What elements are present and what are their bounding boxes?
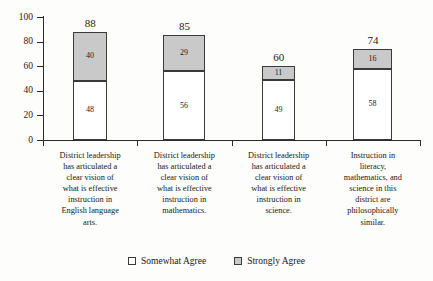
y-axis-tick-label: 20 xyxy=(0,111,33,120)
category-caption-line: has articulated a xyxy=(139,161,229,172)
category-caption-line: English language xyxy=(45,205,135,216)
category-caption: District leadershiphas articulated aclea… xyxy=(45,150,135,228)
bar-stack[interactable]: 4048 xyxy=(73,32,107,140)
category-caption-line: District leadership xyxy=(234,150,324,161)
x-axis-tick xyxy=(137,141,138,146)
bar-total-label: 88 xyxy=(65,18,115,29)
x-axis-tick xyxy=(43,141,44,146)
category-caption-line: arts. xyxy=(45,217,135,228)
category-caption-line: similar. xyxy=(328,217,418,228)
category-caption: Instruction inliteracy,mathematics, ands… xyxy=(328,150,418,228)
category-caption-line: what is effective xyxy=(139,183,229,194)
bar-segment-somewhat-agree[interactable]: 58 xyxy=(353,69,392,140)
bar-segment-value-strongly-agree: 11 xyxy=(275,69,283,77)
bar-segment-strongly-agree[interactable]: 11 xyxy=(262,66,295,80)
category-caption-line: science in this xyxy=(328,183,418,194)
bar-segment-somewhat-agree[interactable]: 49 xyxy=(262,80,295,140)
bar-segment-value-somewhat-agree: 56 xyxy=(180,102,188,110)
x-axis-tick xyxy=(326,141,327,146)
category-caption-line: district are xyxy=(328,194,418,205)
x-axis-tick xyxy=(232,141,233,146)
bar-segment-value-strongly-agree: 16 xyxy=(369,55,377,63)
y-axis-tick xyxy=(37,42,43,43)
category-caption-line: instruction in xyxy=(45,194,135,205)
bar-total-label: 60 xyxy=(254,52,304,63)
category-caption: District leadershiphas articulated aclea… xyxy=(139,150,229,217)
legend-label-strongly-agree: Strongly Agree xyxy=(247,256,305,266)
category-caption-line: clear vision of xyxy=(139,172,229,183)
y-axis-tick-label: 40 xyxy=(0,86,33,95)
category-caption-line: philosophically xyxy=(328,205,418,216)
bar-stack[interactable]: 1149 xyxy=(262,66,295,140)
category-caption-line: has articulated a xyxy=(45,161,135,172)
bar-segment-value-somewhat-agree: 58 xyxy=(369,100,377,108)
bar-segment-value-somewhat-agree: 48 xyxy=(86,106,94,114)
bar-stack[interactable]: 1658 xyxy=(353,49,392,140)
category-caption-line: Instruction in xyxy=(328,150,418,161)
bar-segment-strongly-agree[interactable]: 40 xyxy=(73,32,107,81)
y-axis-tick xyxy=(37,17,43,18)
y-axis-tick-label: 80 xyxy=(0,37,33,46)
bar-segment-value-strongly-agree: 40 xyxy=(86,52,94,60)
bar-segment-strongly-agree[interactable]: 29 xyxy=(163,35,205,71)
bar-segment-value-somewhat-agree: 49 xyxy=(275,106,283,114)
bar-total-label: 85 xyxy=(159,21,209,32)
category-caption-line: instruction in xyxy=(234,194,324,205)
legend-label-somewhat-agree: Somewhat Agree xyxy=(141,256,206,266)
bar-segment-value-strongly-agree: 29 xyxy=(180,49,188,57)
category-caption-line: what is effective xyxy=(234,183,324,194)
legend-item-somewhat-agree[interactable]: Somewhat Agree xyxy=(128,256,206,266)
category-caption-line: has articulated a xyxy=(234,161,324,172)
bar-stack[interactable]: 2956 xyxy=(163,35,205,140)
category-caption-line: District leadership xyxy=(45,150,135,161)
y-axis-tick xyxy=(37,115,43,116)
category-caption-line: mathematics, and xyxy=(328,172,418,183)
stacked-bar-chart-figure: 100806040200 404888295685114960165874 Di… xyxy=(0,0,433,281)
y-axis-tick-label: 60 xyxy=(0,62,33,71)
y-axis-tick xyxy=(37,66,43,67)
category-caption-line: mathematics. xyxy=(139,205,229,216)
category-caption-line: clear vision of xyxy=(45,172,135,183)
category-caption-line: literacy, xyxy=(328,161,418,172)
category-caption-line: clear vision of xyxy=(234,172,324,183)
bar-segment-somewhat-agree[interactable]: 56 xyxy=(163,71,205,140)
gray-square-icon xyxy=(234,257,242,265)
y-axis-line xyxy=(43,16,44,141)
x-axis-tick xyxy=(420,141,421,146)
chart-legend: Somewhat Agree Strongly Agree xyxy=(0,256,433,266)
bar-segment-somewhat-agree[interactable]: 48 xyxy=(73,81,107,140)
category-caption-line: District leadership xyxy=(139,150,229,161)
category-caption-line: what is effective xyxy=(45,183,135,194)
white-square-icon xyxy=(128,257,136,265)
category-caption-line: science. xyxy=(234,205,324,216)
category-caption-line: instruction in xyxy=(139,194,229,205)
y-axis-tick xyxy=(37,91,43,92)
category-caption: District leadershiphas articulated aclea… xyxy=(234,150,324,217)
y-axis-tick-label: 100 xyxy=(0,13,33,22)
y-axis-tick-label: 0 xyxy=(0,136,33,145)
legend-item-strongly-agree[interactable]: Strongly Agree xyxy=(234,256,305,266)
bar-segment-strongly-agree[interactable]: 16 xyxy=(353,49,392,69)
bar-total-label: 74 xyxy=(348,35,398,46)
